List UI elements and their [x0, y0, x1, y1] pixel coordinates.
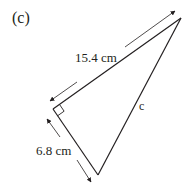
- dimension-arrow-15-4-left: [50, 82, 77, 101]
- label-c: c: [139, 99, 144, 113]
- right-angle-marker: [58, 104, 65, 115]
- label-6-8-cm: 6.8 cm: [36, 143, 71, 158]
- dimension-arrow-15-4-right: [125, 11, 175, 47]
- side-6-8: [53, 109, 98, 175]
- label-15-4-cm: 15.4 cm: [75, 50, 117, 65]
- triangle-diagram: (c) 15.4 cm 6.8 cm c: [0, 0, 191, 195]
- side-15-4: [53, 18, 181, 109]
- dimension-arrow-6-8-top: [47, 119, 60, 137]
- triangle: [53, 18, 181, 175]
- part-label: (c): [12, 9, 30, 27]
- dimension-arrow-6-8-bottom: [77, 160, 91, 182]
- side-c: [98, 18, 181, 175]
